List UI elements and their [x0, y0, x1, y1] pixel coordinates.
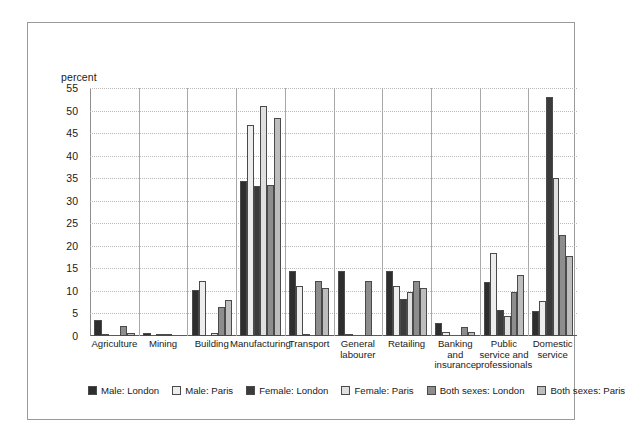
legend-swatch-icon: [246, 386, 255, 395]
chart-legend: Male: LondonMale: ParisFemale: LondonFem…: [88, 382, 598, 398]
bar: [400, 299, 407, 336]
bar: [490, 253, 497, 336]
bar: [484, 282, 491, 336]
y-tick-45: 45: [44, 127, 78, 139]
legend-item: Male: London: [88, 385, 159, 396]
bar: [94, 320, 101, 336]
bar: [143, 333, 151, 336]
x-label-line: Domestic: [515, 339, 591, 350]
bar: [532, 311, 539, 336]
bar-group: [240, 88, 280, 336]
bar: [546, 97, 553, 336]
bar-group: [338, 88, 378, 336]
y-tick-10: 10: [44, 285, 78, 297]
bar: [225, 300, 232, 336]
x-label-line: labourer: [320, 350, 396, 361]
y-tick-5: 5: [44, 307, 78, 319]
y-axis-tick-labels: 5550454035302520151050: [44, 88, 78, 336]
bar: [504, 316, 511, 336]
bar: [442, 332, 449, 337]
bar: [102, 334, 109, 336]
legend-label: Both sexes: London: [440, 385, 525, 396]
y-tick-50: 50: [44, 105, 78, 117]
bar-group: [532, 88, 572, 336]
y-tick-25: 25: [44, 217, 78, 229]
bar: [303, 334, 310, 336]
bar: [461, 327, 468, 336]
x-label-line: service: [515, 350, 591, 361]
bar: [517, 275, 524, 336]
x-axis-category-labels: AgricultureMiningBuildingManufacturingTr…: [90, 339, 577, 375]
legend-label: Both sexes: Paris: [550, 385, 625, 396]
legend-item: Male: Paris: [172, 385, 233, 396]
bar: [553, 178, 560, 336]
y-tick-30: 30: [44, 195, 78, 207]
legend-label: Female: Paris: [354, 385, 413, 396]
bar: [274, 118, 281, 336]
bar: [199, 281, 206, 336]
plot-area: [90, 88, 577, 336]
bar: [539, 301, 546, 336]
bar: [407, 292, 414, 336]
y-tick-35: 35: [44, 172, 78, 184]
bar: [192, 290, 199, 336]
legend-swatch-icon: [172, 386, 181, 395]
bar: [218, 307, 225, 336]
bar: [127, 333, 134, 336]
bar: [247, 125, 254, 336]
bar: [393, 286, 400, 337]
bar: [497, 310, 504, 336]
bar-group: [143, 88, 183, 336]
bar: [260, 106, 267, 336]
bar: [315, 281, 322, 336]
y-tick-20: 20: [44, 240, 78, 252]
bar: [435, 323, 442, 336]
bar: [365, 281, 373, 336]
bar-group: [94, 88, 134, 336]
legend-label: Male: London: [101, 385, 159, 396]
bar: [345, 334, 353, 336]
legend-label: Female: London: [259, 385, 328, 396]
bar: [468, 332, 475, 336]
bar: [413, 281, 420, 336]
bar: [254, 186, 261, 336]
legend-swatch-icon: [341, 386, 350, 395]
bar-group: [289, 88, 329, 336]
bar: [559, 235, 566, 336]
bar: [267, 185, 274, 336]
legend-item: Female: London: [246, 385, 328, 396]
x-label-line: professionals: [466, 360, 542, 371]
legend-swatch-icon: [88, 386, 97, 395]
legend-swatch-icon: [427, 386, 436, 395]
y-tick-15: 15: [44, 262, 78, 274]
bar: [156, 334, 164, 336]
legend-label: Male: Paris: [185, 385, 233, 396]
bar: [240, 181, 247, 336]
bar: [164, 334, 172, 336]
legend-item: Both sexes: London: [427, 385, 525, 396]
bar-group: [192, 88, 232, 336]
bar: [566, 256, 573, 336]
bar-group: [435, 88, 475, 336]
x-label-domestic-service: Domesticservice: [515, 339, 591, 360]
bar-group: [386, 88, 426, 336]
y-tick-0: 0: [44, 330, 78, 342]
legend-item: Female: Paris: [341, 385, 413, 396]
legend-item: Both sexes: Paris: [537, 385, 625, 396]
y-tick-55: 55: [44, 82, 78, 94]
bar: [296, 286, 303, 337]
bar: [386, 271, 393, 336]
bar: [338, 271, 346, 336]
bar: [211, 333, 218, 336]
legend-swatch-icon: [537, 386, 546, 395]
bar: [511, 292, 518, 336]
bar: [322, 288, 329, 336]
bar-group: [484, 88, 524, 336]
bar: [289, 271, 296, 336]
y-tick-40: 40: [44, 150, 78, 162]
bar: [120, 326, 127, 336]
bar: [420, 288, 427, 336]
bars-layer: [90, 88, 577, 336]
chart-figure-frame: percent 5550454035302520151050 Agricultu…: [27, 22, 575, 420]
